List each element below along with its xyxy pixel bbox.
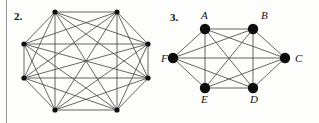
graph-edge — [253, 29, 285, 58]
graph-edge — [173, 29, 205, 58]
hexagon-complete-graph: ABCDEF — [160, 0, 319, 123]
graph-vertex-c — [280, 53, 290, 63]
graph-vertex — [21, 41, 26, 46]
graph-edge — [24, 78, 117, 110]
graph-vertex — [52, 107, 57, 112]
graph-vertex — [114, 9, 119, 14]
graph-edge — [117, 78, 148, 110]
graph-vertex — [145, 75, 150, 80]
graph-edge — [24, 78, 55, 110]
vertex-label-d: D — [249, 93, 258, 105]
graph-edge — [55, 12, 148, 44]
graph-vertex-b — [248, 24, 258, 34]
graph-edge — [55, 78, 148, 110]
graph-vertex-d — [248, 83, 258, 93]
graph-vertex-a — [200, 24, 210, 34]
graph-edge — [173, 58, 205, 88]
graph-vertex — [52, 9, 57, 14]
vertex-label-a: A — [200, 9, 208, 21]
graph-edge — [24, 12, 117, 78]
vertex-label-b: B — [261, 9, 268, 21]
graph-vertex-f — [168, 53, 178, 63]
graph-edge — [24, 12, 55, 44]
vertex-label-f: F — [160, 52, 168, 64]
graph-vertex — [21, 75, 26, 80]
graph-edge — [55, 44, 148, 110]
figure-page: 2. 3. ABCDEF — [0, 0, 319, 123]
graph-edge — [24, 12, 117, 44]
figure-3: 3. ABCDEF — [160, 0, 319, 123]
graph-edge — [253, 58, 285, 88]
vertex-label-e: E — [200, 93, 208, 105]
graph-edge — [55, 12, 148, 78]
graph-vertex — [145, 41, 150, 46]
figure-2: 2. — [0, 0, 160, 123]
vertex-label-c: C — [295, 52, 303, 64]
graph-vertex — [114, 107, 119, 112]
graph-edge — [117, 12, 148, 44]
octagon-complete-graph — [0, 0, 160, 123]
graph-edge — [24, 44, 117, 110]
graph-vertex-e — [200, 83, 210, 93]
